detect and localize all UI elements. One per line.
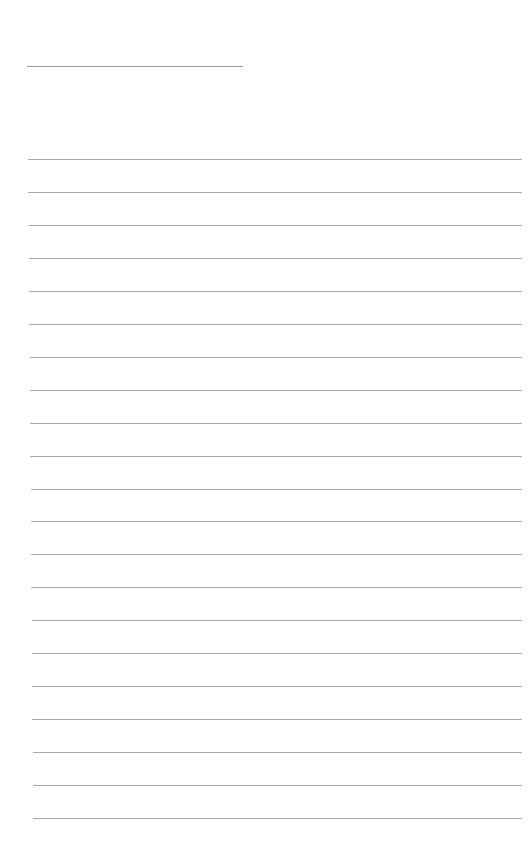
- ruled-line: [33, 818, 522, 819]
- ruled-line: [32, 620, 522, 621]
- ruled-line: [32, 719, 522, 720]
- ruled-line: [30, 423, 522, 424]
- ruled-line: [29, 258, 522, 259]
- ruled-line: [29, 291, 522, 292]
- ruled-line: [28, 159, 522, 160]
- ruled-line: [31, 521, 522, 522]
- ruled-line: [31, 587, 522, 588]
- ruled-line: [32, 653, 522, 654]
- ruled-line: [32, 686, 522, 687]
- ruled-line: [33, 752, 522, 753]
- ruled-line: [31, 554, 522, 555]
- ruled-line: [33, 785, 522, 786]
- ruled-line: [29, 225, 522, 226]
- ruled-lines: [0, 0, 532, 863]
- ruled-line: [31, 489, 522, 490]
- ruled-line: [28, 192, 522, 193]
- lined-page: [0, 0, 532, 863]
- ruled-line: [30, 390, 522, 391]
- ruled-line: [30, 456, 522, 457]
- ruled-line: [30, 357, 522, 358]
- ruled-line: [29, 324, 522, 325]
